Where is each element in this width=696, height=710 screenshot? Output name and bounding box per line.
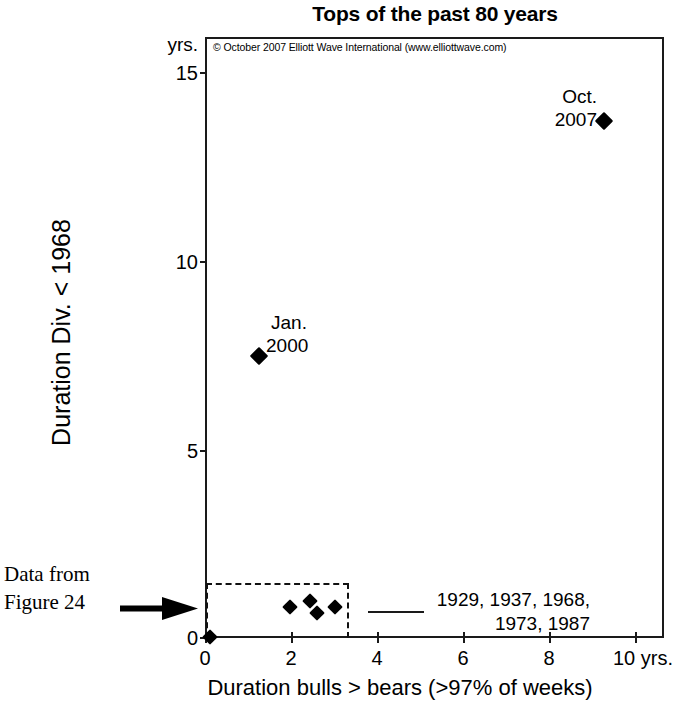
data-label-oct-2007-line2: 2007	[479, 108, 597, 131]
arrow-right-icon	[120, 596, 198, 622]
data-label-oct-2007-line1: Oct.	[479, 85, 597, 108]
cluster-years-line1: 1929, 1937, 1968,	[380, 588, 590, 612]
x-tick-label-2: 2	[271, 648, 311, 668]
source-note-line2: Figure 24	[4, 588, 129, 616]
data-label-jan-2000-line1: Jan.	[271, 311, 307, 334]
cluster-years-line2: 1973, 1987	[380, 612, 590, 636]
x-tick-label-0: 0	[185, 648, 225, 668]
source-note: Data from Figure 24	[4, 560, 129, 616]
y-axis-unit-label: yrs.	[167, 34, 198, 56]
y-tick-label-0: 0	[150, 628, 198, 648]
cluster-years-label: 1929, 1937, 1968, 1973, 1987	[380, 588, 590, 636]
copyright-notice: © October 2007 Elliott Wave Internationa…	[213, 41, 506, 53]
x-tick-label-8: 8	[529, 648, 569, 668]
y-tick-label-5: 5	[150, 441, 198, 461]
cluster-highlight-box	[206, 583, 349, 638]
x-tick-label-4: 4	[357, 648, 397, 668]
x-tick-label-10: 10 yrs.	[613, 648, 693, 668]
data-label-jan-2000-line2: 2000	[266, 334, 308, 357]
chart-title: Tops of the past 80 years	[205, 2, 665, 26]
x-axis-title: Duration bulls > bears (>97% of weeks)	[150, 675, 650, 701]
source-note-line1: Data from	[4, 560, 129, 588]
y-axis-title: Duration Div. < 1968	[47, 168, 76, 498]
y-axis-unit-container: yrs.	[120, 0, 198, 60]
chart-figure: Tops of the past 80 years yrs. 15 10 5 0…	[0, 0, 696, 710]
y-tick-label-15: 15	[150, 63, 198, 83]
x-tick-mark-2	[291, 632, 293, 643]
x-tick-mark-4	[377, 632, 379, 643]
x-tick-label-6: 6	[443, 648, 483, 668]
x-tick-mark-10	[635, 632, 637, 643]
y-tick-label-10: 10	[150, 252, 198, 272]
